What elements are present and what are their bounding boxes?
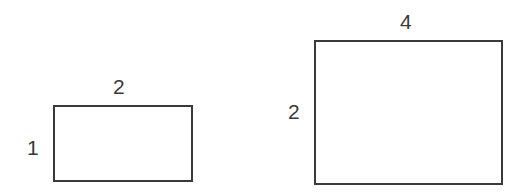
large-rectangle-height-label: 2 [288, 101, 300, 122]
small-rectangle-width-label: 2 [113, 76, 125, 97]
small-rectangle-height-label: 1 [27, 137, 39, 158]
small-rectangle [53, 105, 193, 182]
large-rectangle [314, 40, 503, 185]
large-rectangle-width-label: 4 [400, 11, 412, 32]
